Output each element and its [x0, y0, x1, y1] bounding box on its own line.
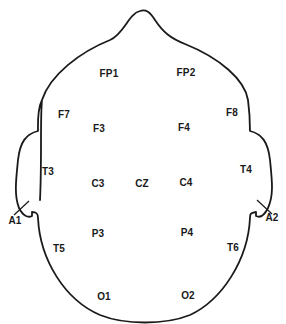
electrode-o1: O1 — [97, 292, 111, 302]
electrode-t5: T5 — [53, 244, 65, 254]
electrode-a1: A1 — [8, 216, 21, 226]
electrode-f8: F8 — [226, 108, 238, 118]
electrode-p4: P4 — [181, 228, 194, 238]
electrode-a2: A2 — [265, 213, 278, 223]
electrode-f4: F4 — [178, 123, 190, 133]
electrode-cz: CZ — [135, 179, 149, 189]
electrode-c3: C3 — [91, 179, 104, 189]
head-outline-path — [16, 10, 272, 322]
electrode-o2: O2 — [181, 291, 195, 301]
electrode-f3: F3 — [93, 124, 105, 134]
electrode-t6: T6 — [227, 243, 239, 253]
electrode-fp2: FP2 — [177, 68, 196, 78]
electrode-f7: F7 — [58, 110, 70, 120]
eeg-head-diagram: FP1 FP2 F7 F8 F3 F4 T3 C3 CZ C4 T4 A1 A2… — [0, 0, 286, 324]
head-outline — [0, 0, 286, 324]
electrode-t3: T3 — [42, 167, 54, 177]
electrode-p3: P3 — [92, 229, 105, 239]
electrode-fp1: FP1 — [100, 69, 119, 79]
electrode-t4: T4 — [240, 165, 252, 175]
electrode-c4: C4 — [179, 178, 192, 188]
